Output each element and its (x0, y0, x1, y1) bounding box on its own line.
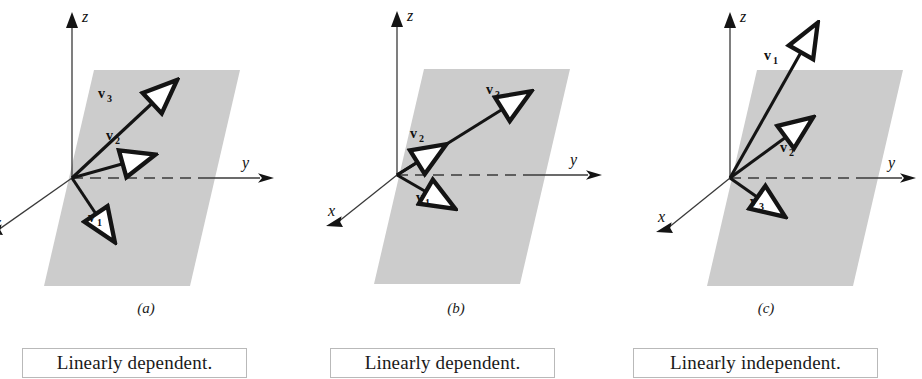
vector-label-v2: v (410, 126, 417, 141)
vector-label-v3: v (750, 194, 757, 209)
caption-panel-a: Linearly dependent. (22, 348, 247, 378)
shaded-plane (374, 69, 570, 284)
panel-a: z y x v 3 v 2 (0, 0, 300, 300)
axis-label-y: y (886, 154, 896, 172)
axis-label-z: z (739, 8, 747, 25)
vector-label-v2: v (780, 140, 787, 155)
caption-row: Linearly dependent. Linearly dependent. … (0, 348, 922, 379)
vector-dependence-figure: z y x v 3 v 2 (0, 0, 922, 379)
caption-panel-b: Linearly dependent. (330, 348, 555, 378)
panel-label-a: (a) (0, 300, 300, 317)
axis-label-x: x (0, 214, 1, 231)
vector-label-v2-subscript: 2 (789, 147, 794, 158)
vector-label-v3-subscript: 3 (107, 93, 112, 104)
axis-label-z: z (81, 8, 89, 25)
vector-label-v1: v (764, 48, 771, 63)
panel-b: z y x v 3 v 2 (302, 0, 610, 300)
panel-c: z y x v 1 v 2 (612, 0, 920, 300)
vector-label-v1: v (416, 190, 423, 205)
panel-label-c: (c) (612, 300, 920, 317)
vector-label-v3-subscript: 3 (759, 201, 764, 212)
vector-label-v2-subscript: 2 (115, 135, 120, 146)
vector-label-v3-subscript: 3 (495, 89, 500, 100)
axis-x (656, 178, 730, 233)
panel-label-b: (b) (302, 300, 610, 317)
vector-label-v3: v (486, 82, 493, 97)
axis-label-y: y (240, 154, 250, 172)
axis-label-y: y (568, 151, 578, 169)
axis-z (724, 12, 736, 178)
axis-x (326, 175, 397, 227)
vector-label-v1-subscript: 1 (425, 197, 430, 208)
vector-label-v2-subscript: 2 (419, 133, 424, 144)
vector-label-v1: v (88, 210, 95, 225)
caption-panel-c: Linearly independent. (633, 348, 878, 378)
vector-label-v1-subscript: 1 (97, 217, 102, 228)
vector-label-v2: v (106, 128, 113, 143)
axis-label-z: z (406, 7, 414, 24)
vector-label-v1-subscript: 1 (773, 55, 778, 66)
axis-label-x: x (657, 208, 665, 225)
vector-label-v3: v (98, 86, 105, 101)
axis-label-x: x (327, 202, 335, 219)
axis-z (391, 11, 403, 175)
